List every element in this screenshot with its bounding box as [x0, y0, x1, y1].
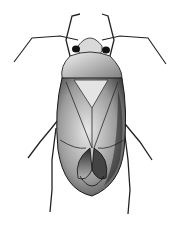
left-eye [72, 46, 80, 53]
bug-drawing [0, 0, 180, 228]
right-eye [102, 47, 110, 54]
pronotum [62, 52, 122, 81]
insect-illustration [0, 0, 180, 228]
